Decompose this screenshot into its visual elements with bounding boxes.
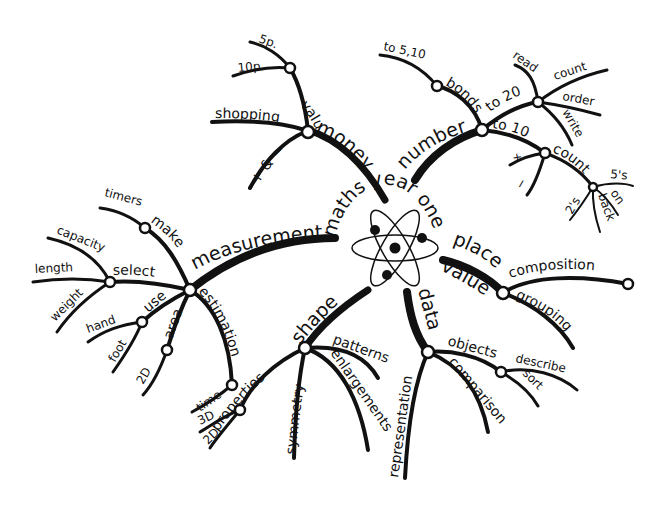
- branch-data-label[interactable]: data: [414, 285, 446, 332]
- leaf-length[interactable]: length: [34, 260, 73, 276]
- labels: maths year one money values shopping + &…: [0, 0, 628, 478]
- measurement-use-label[interactable]: use: [140, 287, 169, 315]
- node-composition[interactable]: [623, 279, 633, 289]
- node-to20[interactable]: [533, 97, 543, 107]
- leaf-10p[interactable]: 10p.: [237, 59, 265, 75]
- leaf-count-20[interactable]: count: [552, 59, 589, 83]
- leaf-hand[interactable]: hand: [84, 312, 117, 335]
- branch-measurement-label[interactable]: measurement: [187, 220, 323, 273]
- node-use[interactable]: [137, 317, 147, 327]
- node-area[interactable]: [162, 345, 172, 355]
- leaf-2s[interactable]: 2's: [562, 195, 583, 217]
- leaf-to-5-10[interactable]: to 5,10: [382, 39, 427, 62]
- node-estimation[interactable]: [227, 380, 237, 390]
- node-measurement[interactable]: [184, 284, 196, 296]
- node-objects[interactable]: [496, 367, 506, 377]
- mind-map: maths year one money values shopping + &…: [0, 0, 669, 506]
- node-data[interactable]: [422, 346, 434, 358]
- number-bonds-label[interactable]: bonds: [443, 74, 486, 115]
- leaf-timers[interactable]: timers: [103, 185, 144, 208]
- leaf-5p[interactable]: 5p.: [257, 32, 280, 52]
- node-to10[interactable]: [540, 148, 550, 158]
- node-values[interactable]: [285, 63, 295, 73]
- leaf-5s[interactable]: 5's: [610, 167, 628, 182]
- node-count[interactable]: [589, 183, 597, 191]
- measurement-estimation-label[interactable]: estimation: [196, 283, 245, 358]
- measurement-make-label[interactable]: make: [148, 211, 188, 250]
- node-bonds[interactable]: [432, 81, 442, 91]
- measurement-select-label[interactable]: select: [112, 262, 156, 280]
- shape-symmetry-label[interactable]: symmetry: [282, 383, 307, 455]
- data-comparison-label[interactable]: comparison: [446, 354, 511, 427]
- node-number[interactable]: [476, 124, 488, 136]
- place-value-grouping-label[interactable]: grouping: [514, 286, 576, 334]
- node-make[interactable]: [140, 223, 150, 233]
- leaf-plus[interactable]: +: [511, 149, 523, 165]
- money-plus-minus-label[interactable]: + & −: [247, 142, 287, 186]
- leaf-minus[interactable]: −: [512, 176, 529, 192]
- measurement-area-label[interactable]: area: [160, 306, 186, 341]
- node-place-value[interactable]: [497, 287, 509, 299]
- node-select[interactable]: [105, 277, 115, 287]
